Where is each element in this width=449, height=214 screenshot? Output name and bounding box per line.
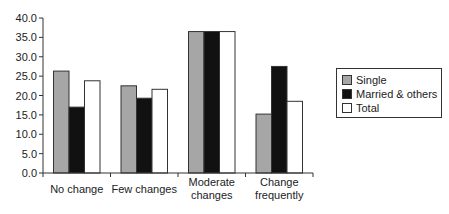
y-tick-label: 20.0 [16,90,37,102]
x-category-label: changes [191,189,233,201]
y-tick-label: 15.0 [16,109,37,121]
bar-married-others [69,107,85,173]
bar-total [152,89,168,173]
bar-total [287,101,303,173]
bar-single [121,86,137,173]
y-tick-label: 0.0 [22,167,37,179]
legend-label: Total [356,102,379,114]
legend-item-total: Total [342,101,436,115]
legend: Single Married & others Total [336,68,442,118]
legend-item-married: Married & others [342,87,436,101]
legend-item-single: Single [342,73,436,87]
y-axis: 0.05.010.015.020.025.030.035.040.0 [16,12,43,179]
x-category-label: No change [50,183,103,195]
bar-single [54,71,70,173]
y-tick-label: 30.0 [16,51,37,63]
x-category-label: frequently [255,189,304,201]
bars [54,32,303,173]
legend-swatch-married [342,89,352,99]
y-tick-label: 10.0 [16,128,37,140]
x-category-label: Few changes [112,183,178,195]
legend-label: Married & others [356,88,437,100]
y-tick-label: 35.0 [16,31,37,43]
legend-swatch-single [342,75,352,85]
x-axis: No changeFew changesModeratechangesChang… [43,173,313,201]
y-tick-label: 5.0 [22,148,37,160]
bar-married-others [137,98,153,173]
bar-total [220,32,236,173]
bar-total [85,81,101,173]
legend-swatch-total [342,103,352,113]
legend-label: Single [356,74,387,86]
x-category-label: Change [260,176,299,188]
bar-single [189,32,205,173]
bar-married-others [272,66,288,173]
y-tick-label: 25.0 [16,70,37,82]
y-tick-label: 40.0 [16,12,37,24]
x-category-label: Moderate [189,176,235,188]
bar-single [256,114,272,173]
bar-married-others [204,32,220,173]
